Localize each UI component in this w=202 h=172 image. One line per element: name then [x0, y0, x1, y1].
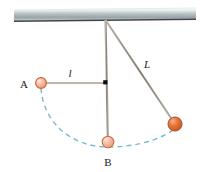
- ball-a: [36, 78, 47, 89]
- pendulum-diagram-canvas: A B l L: [0, 0, 202, 172]
- ball-b: [102, 136, 114, 148]
- ball-right: [168, 117, 182, 131]
- label-length-lowercase-l: l: [68, 67, 71, 79]
- ball-right-body: [168, 117, 182, 131]
- ball-b-body: [102, 136, 114, 148]
- ceiling-group: [14, 8, 196, 21]
- pendulum-figure: A B l L: [0, 0, 202, 172]
- diagonal-rod: [106, 20, 176, 124]
- label-point-b: B: [104, 156, 111, 168]
- label-length-uppercase-l: L: [143, 58, 150, 70]
- rods-group: [41, 20, 175, 142]
- ball-a-body: [36, 78, 47, 89]
- label-point-a: A: [20, 78, 28, 90]
- center-pivot-dot: [103, 80, 107, 84]
